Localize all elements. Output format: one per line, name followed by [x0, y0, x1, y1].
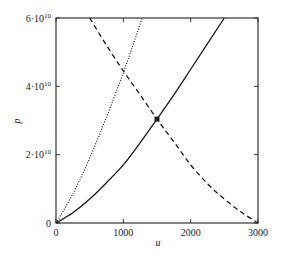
chart: 0100020003000 02·10104·10106·1010 u p	[0, 0, 284, 256]
solid-curve	[56, 18, 224, 223]
y-tick-label: 4·1010	[26, 80, 52, 92]
y-tick-label: 2·1010	[26, 148, 52, 160]
y-axis-label: p	[11, 119, 22, 125]
dotted-curve	[56, 18, 142, 223]
y-tick-label: 0	[46, 218, 51, 229]
x-tick-label: 1000	[113, 227, 133, 238]
intersection-marker	[155, 117, 160, 122]
x-axis-ticks: 0100020003000	[54, 18, 269, 238]
x-tick-label: 3000	[248, 227, 268, 238]
x-tick-label: 0	[54, 227, 59, 238]
y-axis-ticks: 02·10104·10106·1010	[26, 12, 258, 229]
x-tick-label: 2000	[181, 227, 201, 238]
data-markers	[155, 117, 160, 122]
x-axis-label: u	[156, 237, 161, 248]
y-tick-label: 6·1010	[26, 12, 52, 24]
dashed-curve	[90, 18, 258, 223]
